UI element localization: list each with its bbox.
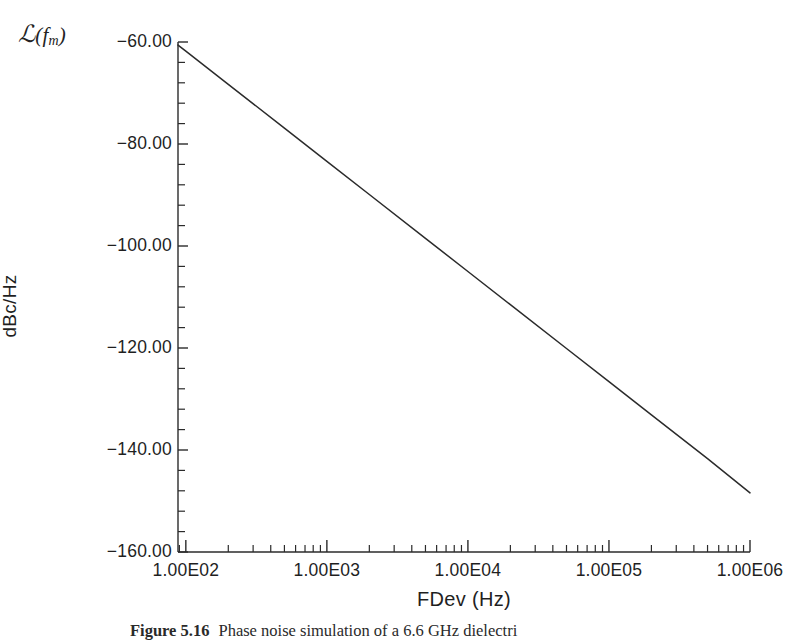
x-tick-label: 1.00E05 xyxy=(549,560,669,581)
x-tick-label: 1.00E02 xyxy=(126,560,246,581)
figure-phase-noise-plot: ℒ(fm) −60.00−80.00−100.00−120.00−140.00−… xyxy=(0,0,808,641)
figure-caption-text: Phase noise simulation of a 6.6 GHz diel… xyxy=(218,621,517,640)
figure-caption-label: Figure 5.16 xyxy=(130,621,209,640)
x-tick-label-group: 1.00E021.00E031.00E041.00E051.00E06 xyxy=(0,0,808,641)
figure-caption: Figure 5.16Phase noise simulation of a 6… xyxy=(130,621,790,641)
x-tick-label: 1.00E03 xyxy=(267,560,387,581)
x-tick-label: 1.00E04 xyxy=(408,560,528,581)
x-axis-title: FDev (Hz) xyxy=(178,588,750,611)
x-tick-label: 1.00E06 xyxy=(690,560,808,581)
y-axis-title: dBc/Hz xyxy=(0,236,21,376)
